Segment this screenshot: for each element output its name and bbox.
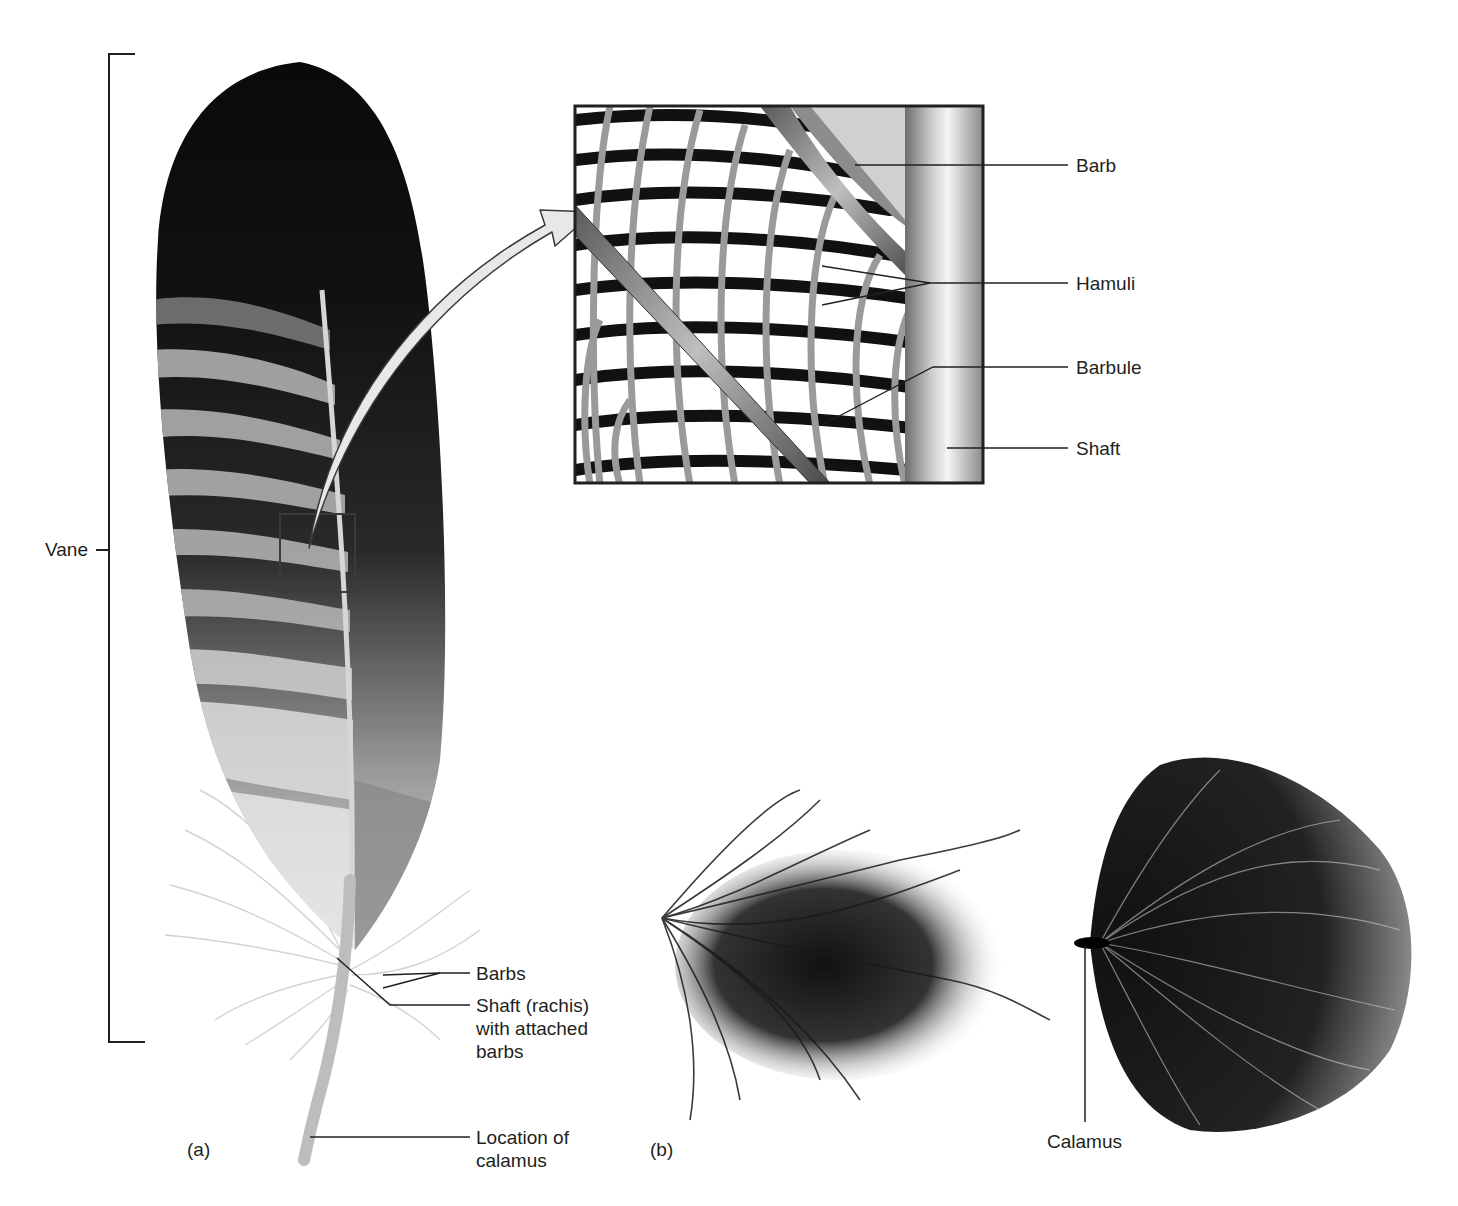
down-feather-fan bbox=[1074, 758, 1411, 1132]
calamus-location-label: Location of calamus bbox=[476, 1126, 569, 1172]
vane-label: Vane bbox=[45, 538, 88, 561]
magnified-inset bbox=[575, 106, 1068, 485]
inset-shaft-label: Shaft bbox=[1076, 437, 1120, 460]
shaft-leader-line bbox=[337, 958, 470, 1005]
calamus-label: Calamus bbox=[1047, 1130, 1122, 1153]
panel-a-label: (a) bbox=[187, 1139, 210, 1161]
panel-b-label: (b) bbox=[650, 1139, 673, 1161]
inset-hamuli-label: Hamuli bbox=[1076, 272, 1135, 295]
barbs-label: Barbs bbox=[476, 962, 526, 985]
diagram-artwork bbox=[0, 0, 1458, 1206]
feather-structure-diagram: Vane Barbs Shaft (rachis) with attached … bbox=[0, 0, 1458, 1206]
calamus-shape bbox=[1074, 937, 1110, 949]
inset-barbule-label: Barbule bbox=[1076, 356, 1142, 379]
vane-bracket bbox=[96, 54, 145, 1042]
barbs-leader-line bbox=[383, 973, 470, 975]
shaft-rachis-label: Shaft (rachis) with attached barbs bbox=[476, 994, 589, 1063]
inset-barb-label: Barb bbox=[1076, 154, 1116, 177]
plumulaceous-feather bbox=[662, 790, 1050, 1120]
contour-feather bbox=[150, 62, 480, 1160]
